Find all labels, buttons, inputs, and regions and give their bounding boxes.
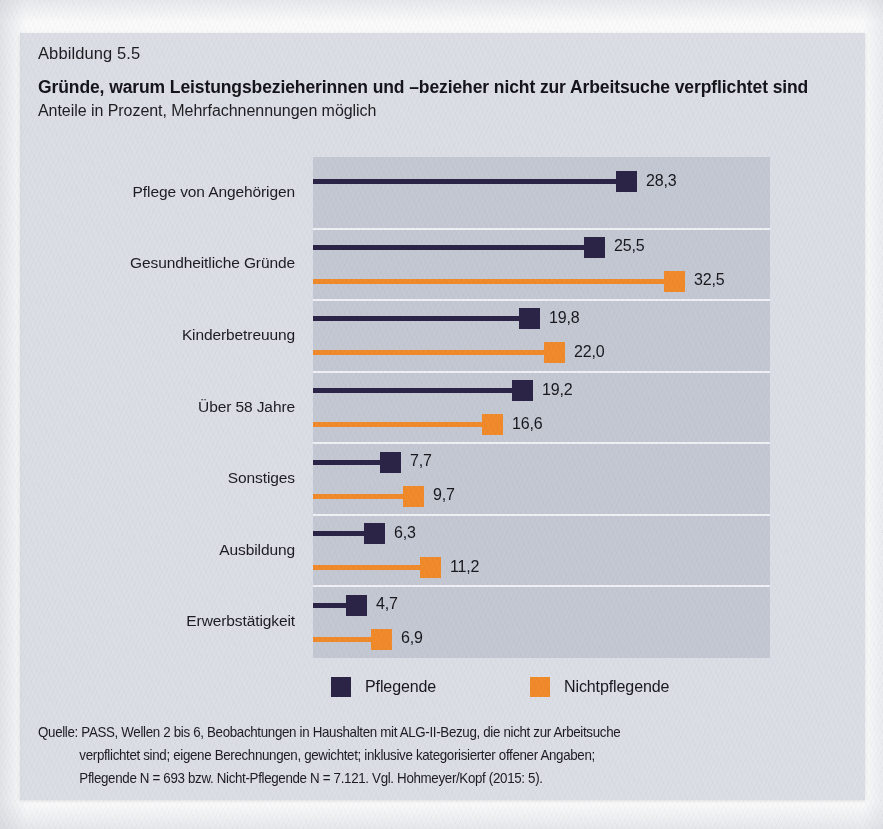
bar-value-label: 6,9 bbox=[401, 629, 423, 647]
bar-value-label: 19,8 bbox=[549, 309, 579, 327]
row-divider bbox=[313, 299, 770, 301]
category-label: Sonstiges bbox=[23, 469, 295, 487]
row-divider bbox=[313, 228, 770, 230]
bar-end-marker bbox=[482, 414, 503, 435]
row-divider bbox=[313, 514, 770, 516]
row-divider bbox=[313, 371, 770, 373]
category-label: Pflege von Angehörigen bbox=[23, 183, 295, 201]
category-label: Gesundheitliche Gründe bbox=[23, 254, 295, 272]
bar-end-marker bbox=[512, 380, 533, 401]
source-note: Quelle: PASS, Wellen 2 bis 6, Beobachtun… bbox=[38, 721, 801, 790]
bar-end-marker bbox=[519, 308, 540, 329]
bar-end-marker bbox=[371, 629, 392, 650]
source-note-line: Pflegende N = 693 bzw. Nicht-Pflegende N… bbox=[38, 767, 801, 790]
bar-value-label: 16,6 bbox=[512, 415, 542, 433]
bar-value-label: 4,7 bbox=[376, 595, 398, 613]
bar-pflegende bbox=[313, 388, 533, 393]
plot-area bbox=[313, 157, 770, 658]
bar-end-marker bbox=[346, 595, 367, 616]
legend-swatch-icon bbox=[331, 677, 351, 697]
bar-value-label: 28,3 bbox=[646, 172, 676, 190]
bar-value-label: 9,7 bbox=[433, 486, 455, 504]
category-label: Erwerbstätigkeit bbox=[23, 612, 295, 630]
bar-pflegende bbox=[313, 245, 605, 250]
row-divider bbox=[313, 585, 770, 587]
figure-panel: Abbildung 5.5 Gründe, warum Leistungsbez… bbox=[20, 33, 865, 800]
legend-label: Pflegende bbox=[365, 678, 436, 696]
bar-value-label: 6,3 bbox=[394, 524, 416, 542]
bar-chart: Pflege von Angehörigen28,3Gesundheitlich… bbox=[20, 33, 865, 800]
bar-nichtpflegende bbox=[313, 422, 503, 427]
bar-end-marker bbox=[380, 452, 401, 473]
legend-item-pflegende[interactable]: Pflegende bbox=[331, 677, 436, 697]
bar-pflegende bbox=[313, 316, 540, 321]
legend-swatch-icon bbox=[530, 677, 550, 697]
bar-pflegende bbox=[313, 179, 637, 184]
bar-value-label: 25,5 bbox=[614, 237, 644, 255]
bar-end-marker bbox=[584, 237, 605, 258]
bar-value-label: 7,7 bbox=[410, 452, 432, 470]
category-label: Kinderbetreuung bbox=[23, 326, 295, 344]
category-label: Über 58 Jahre bbox=[23, 398, 295, 416]
bar-end-marker bbox=[403, 486, 424, 507]
bar-nichtpflegende bbox=[313, 279, 685, 284]
source-note-line: Quelle: PASS, Wellen 2 bis 6, Beobachtun… bbox=[38, 721, 801, 744]
bar-end-marker bbox=[364, 523, 385, 544]
bar-end-marker bbox=[616, 171, 637, 192]
legend-label: Nichtpflegende bbox=[564, 678, 669, 696]
bar-end-marker bbox=[420, 557, 441, 578]
bar-end-marker bbox=[544, 342, 565, 363]
bar-value-label: 11,2 bbox=[450, 558, 479, 576]
bar-value-label: 32,5 bbox=[694, 271, 724, 289]
chart-legend: PflegendeNichtpflegende bbox=[313, 675, 770, 703]
row-divider bbox=[313, 442, 770, 444]
bar-end-marker bbox=[664, 271, 685, 292]
bar-nichtpflegende bbox=[313, 350, 565, 355]
category-label: Ausbildung bbox=[23, 541, 295, 559]
bar-value-label: 19,2 bbox=[542, 381, 572, 399]
bar-value-label: 22,0 bbox=[574, 343, 604, 361]
legend-item-nichtpflegende[interactable]: Nichtpflegende bbox=[530, 677, 669, 697]
source-note-line: verpflichtet sind; eigene Berechnungen, … bbox=[38, 744, 801, 767]
